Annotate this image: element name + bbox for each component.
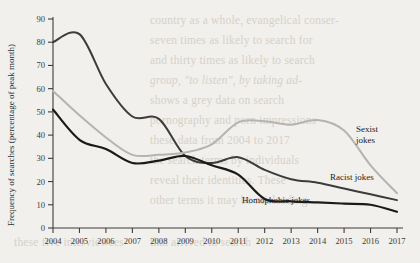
x-tick-label: 2008 (150, 236, 167, 246)
x-tick-label: 2017 (388, 236, 406, 246)
y-tick-label: 80 (36, 37, 45, 47)
series-label-racist-jokes: Racist jokes (330, 172, 374, 182)
x-tick-label: 2004 (44, 236, 62, 246)
series-label-homophobic-jokes: Homophobic jokes (242, 195, 311, 205)
year-axis: 2004200520062007200820092010201120122013… (44, 228, 406, 246)
series-lines (53, 32, 397, 212)
y-tick-label: 60 (36, 84, 45, 94)
x-tick-label: 2015 (335, 236, 352, 246)
x-tick-label: 2009 (177, 236, 194, 246)
y-tick-label: 0 (41, 223, 45, 233)
x-tick-label: 2013 (283, 236, 300, 246)
y-tick-label: 70 (36, 60, 45, 70)
y-tick-label: 30 (36, 153, 45, 163)
y-tick-label: 40 (36, 130, 45, 140)
x-tick-label: 2011 (230, 236, 247, 246)
x-tick-label: 2010 (203, 236, 220, 246)
y-tick-label: 10 (36, 200, 45, 210)
x-tick-label: 2016 (362, 236, 380, 246)
x-tick-label: 2014 (309, 236, 327, 246)
series-labels: Racist jokesSexistjokesHomophobic jokes (242, 124, 379, 205)
y-tick-label: 20 (36, 177, 45, 187)
x-tick-label: 2007 (124, 236, 142, 246)
x-tick-label: 2012 (256, 236, 273, 246)
line-chart: 0102030405060708090 20042005200620072008… (0, 0, 420, 263)
frequency-axis: 0102030405060708090 (36, 14, 53, 233)
y-axis-title: Frequency of searches (percentage of pea… (6, 44, 16, 226)
y-tick-label: 90 (36, 14, 45, 24)
series-label-sexist-jokes: Sexistjokes (355, 124, 379, 145)
x-tick-label: 2005 (71, 236, 88, 246)
y-tick-label: 50 (36, 107, 45, 117)
figure-canvas: country as a whole, evangelical conser-s… (0, 0, 420, 263)
x-tick-label: 2006 (97, 236, 115, 246)
